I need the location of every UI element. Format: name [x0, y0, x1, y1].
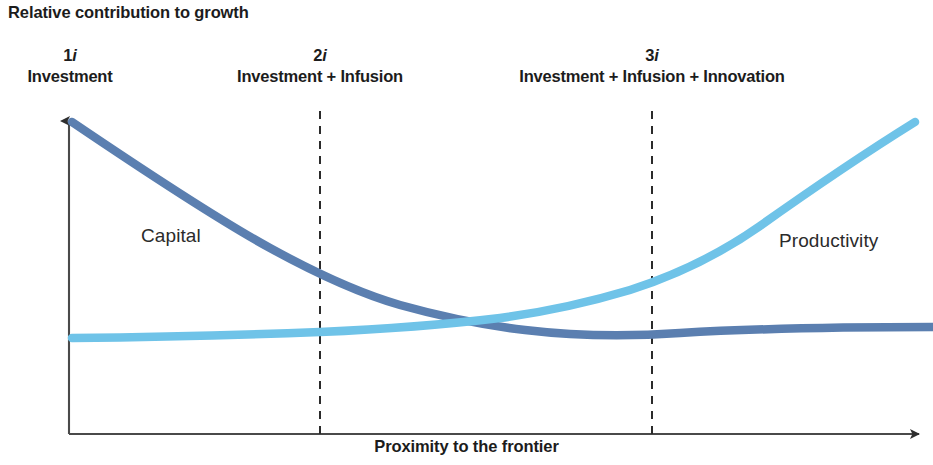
series-label-productivity: Productivity — [779, 230, 878, 252]
x-axis-title: Proximity to the frontier — [0, 437, 933, 456]
series-line-capital — [72, 122, 933, 335]
series-label-capital: Capital — [141, 225, 201, 247]
chart-figure: Relative contribution to growth 1i Inves… — [0, 0, 933, 465]
